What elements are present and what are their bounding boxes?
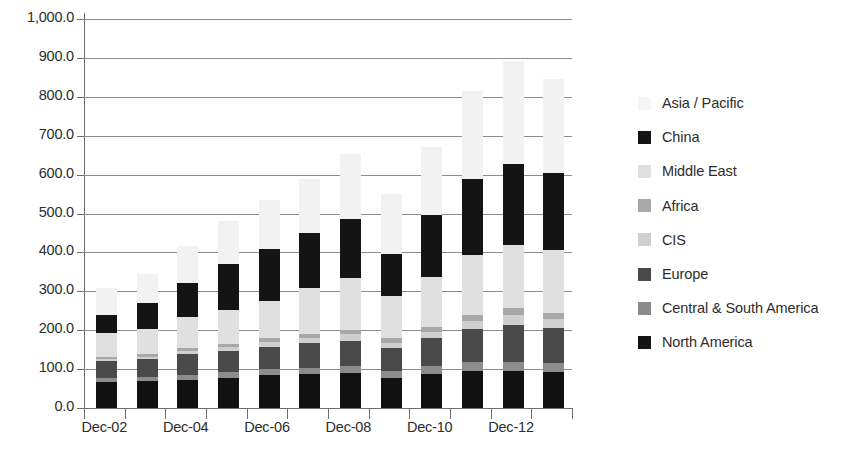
bar-segment-asia-pacific bbox=[259, 200, 280, 249]
bar-dec-03 bbox=[137, 274, 158, 408]
y-tick-label: 200.0 bbox=[39, 320, 74, 336]
bar-segment-middle-east bbox=[381, 296, 402, 338]
y-tick-label: 500.0 bbox=[39, 204, 74, 220]
y-tick-label: 700.0 bbox=[39, 126, 74, 142]
legend-item[interactable]: North America bbox=[638, 325, 847, 359]
bar-segment-china bbox=[177, 283, 198, 317]
x-axis-tick bbox=[287, 408, 288, 419]
bar-segment-china bbox=[340, 219, 361, 278]
bar-segment-cis bbox=[462, 321, 483, 330]
bar-segment-middle-east bbox=[421, 277, 442, 327]
y-axis-tick bbox=[77, 408, 84, 409]
bar-segment-europe bbox=[299, 343, 320, 367]
bar-segment-europe bbox=[462, 329, 483, 362]
bar-segment-europe bbox=[96, 361, 117, 378]
bar-segment-europe bbox=[340, 341, 361, 366]
bar-dec-12 bbox=[503, 61, 524, 408]
bar-segment-asia-pacific bbox=[503, 61, 524, 164]
y-axis-labels: 1,000.0900.0800.0700.0600.0500.0400.0300… bbox=[0, 0, 74, 451]
bar-segment-asia-pacific bbox=[543, 79, 564, 173]
bar-dec-11 bbox=[462, 91, 483, 408]
bar-segment-asia-pacific bbox=[177, 246, 198, 283]
legend-label: Asia / Pacific bbox=[662, 95, 744, 111]
y-axis-tick bbox=[77, 291, 84, 292]
bar-segment-europe bbox=[177, 354, 198, 375]
bar-segment-north-america bbox=[543, 372, 564, 408]
legend-item[interactable]: Asia / Pacific bbox=[638, 86, 847, 120]
bar-segment-middle-east bbox=[462, 255, 483, 316]
legend-label: CIS bbox=[662, 232, 686, 248]
legend-label: Africa bbox=[662, 198, 698, 214]
y-tick-label: 0.0 bbox=[54, 398, 74, 414]
bar-segment-asia-pacific bbox=[462, 91, 483, 179]
y-tick-label: 100.0 bbox=[39, 359, 74, 375]
bar-segment-middle-east bbox=[177, 317, 198, 347]
bar-segment-europe bbox=[421, 338, 442, 366]
x-axis-tick bbox=[125, 408, 126, 419]
legend-item[interactable]: Europe bbox=[638, 257, 847, 291]
legend-swatch-icon bbox=[638, 199, 651, 212]
y-axis-tick bbox=[77, 19, 84, 20]
x-axis-tick bbox=[572, 408, 573, 419]
bar-dec-02 bbox=[96, 288, 117, 408]
plot-area bbox=[84, 19, 572, 408]
y-axis-tick bbox=[77, 175, 84, 176]
bar-segment-middle-east bbox=[299, 288, 320, 334]
legend-swatch-icon bbox=[638, 268, 651, 281]
bar-segment-cis bbox=[503, 315, 524, 325]
bar-segment-china bbox=[259, 249, 280, 302]
bar-segment-north-america bbox=[137, 381, 158, 408]
legend-item[interactable]: China bbox=[638, 120, 847, 154]
bar-segment-cis bbox=[543, 319, 564, 328]
bar-segment-central-south-america bbox=[543, 363, 564, 372]
y-tick-label: 300.0 bbox=[39, 281, 74, 297]
y-axis-tick bbox=[77, 369, 84, 370]
bar-segment-north-america bbox=[259, 375, 280, 408]
y-axis-tick bbox=[77, 58, 84, 59]
legend-label: Central & South America bbox=[662, 300, 818, 316]
bar-segment-asia-pacific bbox=[299, 179, 320, 233]
y-axis-tick bbox=[77, 330, 84, 331]
legend-label: China bbox=[662, 129, 699, 145]
legend-item[interactable]: Central & South America bbox=[638, 291, 847, 325]
x-axis-tick bbox=[369, 408, 370, 419]
x-axis-tick bbox=[84, 408, 85, 419]
bar-dec-05 bbox=[218, 221, 239, 408]
legend-swatch-icon bbox=[638, 97, 651, 110]
y-axis-tick bbox=[77, 214, 84, 215]
bar-segment-europe bbox=[137, 359, 158, 377]
chart-legend: Asia / PacificChinaMiddle EastAfricaCISE… bbox=[638, 86, 847, 360]
legend-item[interactable]: Africa bbox=[638, 189, 847, 223]
y-tick-label: 1,000.0 bbox=[27, 9, 74, 25]
legend-item[interactable]: Middle East bbox=[638, 154, 847, 188]
bar-segment-north-america bbox=[340, 373, 361, 408]
legend-label: Europe bbox=[662, 266, 708, 282]
x-tick-label: Dec-06 bbox=[227, 419, 307, 435]
bar-dec-07 bbox=[299, 179, 320, 408]
legend-swatch-icon bbox=[638, 336, 651, 349]
bar-segment-europe bbox=[218, 351, 239, 372]
bar-segment-central-south-america bbox=[340, 366, 361, 373]
legend-item[interactable]: CIS bbox=[638, 223, 847, 257]
bar-segment-north-america bbox=[218, 378, 239, 408]
y-tick-label: 800.0 bbox=[39, 87, 74, 103]
bar-segment-north-america bbox=[177, 380, 198, 408]
y-axis-tick bbox=[77, 136, 84, 137]
x-axis-tick bbox=[450, 408, 451, 419]
x-axis-tick bbox=[531, 408, 532, 419]
bar-segment-europe bbox=[503, 325, 524, 362]
x-tick-label: Dec-04 bbox=[146, 419, 226, 435]
x-axis-tick bbox=[328, 408, 329, 419]
bar-segment-asia-pacific bbox=[137, 274, 158, 303]
x-tick-label: Dec-02 bbox=[64, 419, 144, 435]
x-axis-tick bbox=[206, 408, 207, 419]
x-tick-label: Dec-10 bbox=[390, 419, 470, 435]
bar-segment-asia-pacific bbox=[218, 221, 239, 264]
bar-segment-central-south-america bbox=[503, 362, 524, 371]
bar-segment-europe bbox=[543, 328, 564, 363]
bar-segment-north-america bbox=[299, 374, 320, 408]
bar-dec-13 bbox=[543, 79, 564, 408]
bar-segment-central-south-america bbox=[462, 362, 483, 371]
bar-segment-middle-east bbox=[259, 301, 280, 338]
legend-label: North America bbox=[662, 334, 753, 350]
